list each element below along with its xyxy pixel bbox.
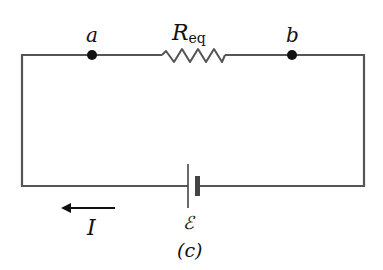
circuit-diagram: a b Req ℰ I (c) xyxy=(0,0,383,270)
current-arrow-icon xyxy=(61,203,71,213)
node-b xyxy=(287,50,297,60)
node-a xyxy=(87,50,97,60)
resistor-label: Req xyxy=(171,20,206,46)
figure-caption: (c) xyxy=(177,239,202,261)
resistor-label-sub: eq xyxy=(189,30,206,46)
emf-label: ℰ xyxy=(183,212,196,233)
node-b-label: b xyxy=(286,23,299,47)
wires xyxy=(22,55,364,186)
wire-top-right xyxy=(198,55,364,186)
wire-top-left xyxy=(22,55,188,186)
resistor-icon xyxy=(162,49,225,62)
node-a-label: a xyxy=(86,23,98,47)
current-label: I xyxy=(86,215,97,240)
resistor-label-main: R xyxy=(171,20,189,45)
battery-negative-plate xyxy=(195,176,200,196)
